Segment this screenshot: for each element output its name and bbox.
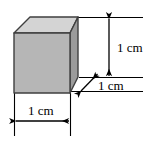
height-label: 1 cm	[117, 40, 143, 55]
cube-dimension-figure: 1 cm 1 cm 1 cm	[0, 0, 147, 141]
depth-label: 1 cm	[98, 78, 124, 93]
dimension-height: 1 cm	[109, 19, 143, 76]
dimension-depth: 1 cm	[81, 74, 124, 93]
cube-front-face	[14, 33, 70, 93]
cube-solid	[14, 17, 78, 93]
width-label: 1 cm	[28, 103, 54, 118]
dimension-width: 1 cm	[16, 103, 69, 121]
depth-arrow-line	[81, 74, 98, 91]
cube-top-face	[14, 17, 78, 33]
figure-container: 1 cm 1 cm 1 cm	[0, 0, 147, 141]
